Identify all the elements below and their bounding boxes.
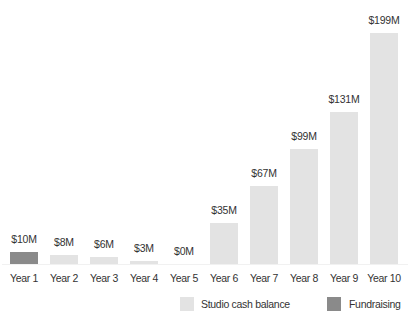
x-tick-label-year-8: Year 8	[282, 272, 326, 284]
legend-label-studio-cash-balance: Studio cash balance	[201, 298, 290, 310]
value-label-year-8: $99M	[279, 130, 329, 142]
bar-chart: Studio cash balance Fundraising $10MYear…	[0, 0, 412, 325]
x-tick-label-year-6: Year 6	[202, 272, 246, 284]
legend-swatch-studio-cash-balance	[180, 297, 194, 311]
value-label-year-7: $67M	[239, 167, 289, 179]
bar-year-9	[330, 112, 358, 264]
x-tick-label-year-7: Year 7	[242, 272, 286, 284]
x-tick-label-year-5: Year 5	[162, 272, 206, 284]
x-tick-label-year-10: Year 10	[362, 272, 406, 284]
legend-label-fundraising: Fundraising	[349, 298, 401, 310]
value-label-year-6: $35M	[199, 204, 249, 216]
bar-year-1	[10, 252, 38, 264]
bar-year-8	[290, 149, 318, 264]
x-axis-baseline	[2, 264, 408, 265]
x-tick-label-year-9: Year 9	[322, 272, 366, 284]
x-tick-label-year-4: Year 4	[122, 272, 166, 284]
bar-year-2	[50, 255, 78, 264]
x-tick-label-year-2: Year 2	[42, 272, 86, 284]
bar-year-10	[370, 33, 398, 264]
x-tick-label-year-1: Year 1	[2, 272, 46, 284]
value-label-year-9: $131M	[319, 93, 369, 105]
bar-year-7	[250, 186, 278, 264]
value-label-year-5: $0M	[159, 245, 209, 257]
bar-year-3	[90, 257, 118, 264]
bar-year-6	[210, 223, 238, 264]
legend-swatch-fundraising	[327, 297, 341, 311]
bar-year-4	[130, 261, 158, 264]
x-tick-label-year-3: Year 3	[82, 272, 126, 284]
value-label-year-10: $199M	[359, 14, 409, 26]
